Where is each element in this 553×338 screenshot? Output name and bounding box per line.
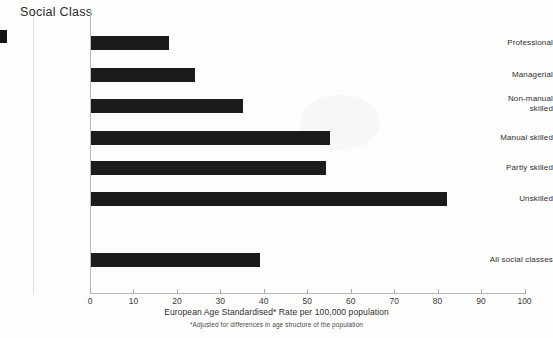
x-axis-tick-label: 40 <box>259 296 268 306</box>
x-axis-tick <box>307 289 308 294</box>
x-axis-tick <box>177 289 178 294</box>
x-axis-tick-label: 20 <box>172 296 181 306</box>
category-label: All social classes <box>465 255 553 265</box>
bar <box>91 253 260 267</box>
y-axis-title: Social Class <box>20 5 92 19</box>
x-axis-tick <box>220 289 221 294</box>
category-label-line: Unskilled <box>465 194 553 204</box>
category-label: Unskilled <box>465 194 553 204</box>
bar <box>91 161 326 175</box>
x-axis-tick-label: 0 <box>88 296 93 306</box>
category-label: Partly skilled <box>465 163 553 173</box>
x-axis-tick-label: 60 <box>346 296 355 306</box>
x-axis-tick <box>90 289 91 294</box>
bar-chart: Social Class 0102030405060708090100 Prof… <box>0 0 553 338</box>
category-label-line: Partly skilled <box>465 163 553 173</box>
x-axis-tick-label: 80 <box>433 296 442 306</box>
bar <box>91 99 243 113</box>
bar <box>91 131 330 145</box>
x-axis-tick-label: 50 <box>303 296 312 306</box>
category-label: Managerial <box>465 70 553 80</box>
x-axis-tick-label: 70 <box>389 296 398 306</box>
category-label: Non-manualskilled <box>465 94 553 113</box>
y-axis-line <box>90 10 91 294</box>
x-axis-tick <box>133 289 134 294</box>
x-axis-tick-label: 30 <box>216 296 225 306</box>
x-axis-tick-label: 90 <box>476 296 485 306</box>
x-axis-label: European Age Standardised* Rate per 100,… <box>0 307 553 317</box>
category-label: Professional <box>465 38 553 48</box>
category-label-line: Non-manual <box>465 94 553 104</box>
x-axis-tick <box>481 289 482 294</box>
category-label-line: Manual skilled <box>465 133 553 143</box>
category-label-line: Managerial <box>465 70 553 80</box>
x-axis-tick-label: 10 <box>129 296 138 306</box>
category-label-line: Professional <box>465 38 553 48</box>
x-axis-tick <box>264 289 265 294</box>
bar <box>91 192 447 206</box>
bar <box>91 68 195 82</box>
x-axis-tick-label: 100 <box>517 296 531 306</box>
category-label-line: All social classes <box>465 255 553 265</box>
x-axis-tick <box>525 289 526 294</box>
category-label-line: skilled <box>465 104 553 114</box>
scan-edge-mark-artifact <box>0 30 7 43</box>
x-axis-tick <box>438 289 439 294</box>
bar <box>91 36 169 50</box>
category-label: Manual skilled <box>465 133 553 143</box>
x-axis-footnote: *Adjusted for differences in age structu… <box>0 321 553 328</box>
scan-vertical-rule-artifact <box>33 8 34 294</box>
x-axis-tick <box>351 289 352 294</box>
x-axis-tick <box>394 289 395 294</box>
